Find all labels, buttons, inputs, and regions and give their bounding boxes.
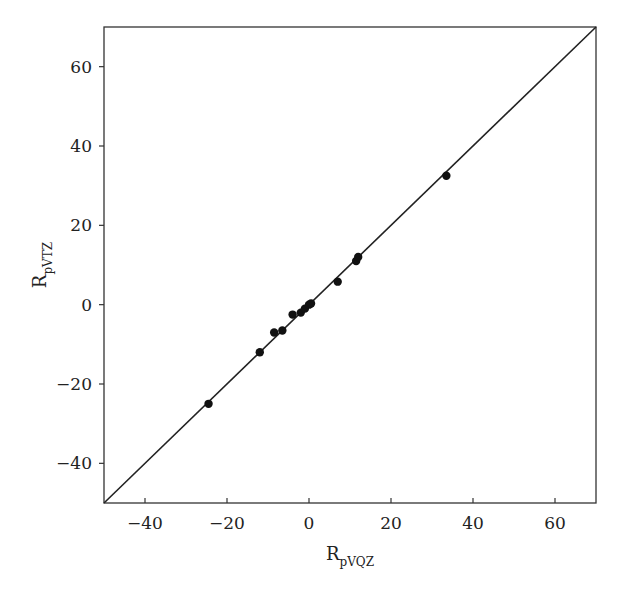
x-axis-label: RpVQZ [326, 543, 374, 569]
y-tick-label: −20 [56, 374, 92, 394]
x-tick-label: −20 [209, 513, 245, 533]
y-tick-label: 60 [70, 57, 92, 77]
data-point [204, 400, 212, 408]
data-point [442, 172, 450, 180]
identity-line [104, 27, 596, 503]
data-point [334, 277, 342, 285]
y-tick-label: 0 [81, 295, 92, 315]
data-point [307, 299, 315, 307]
data-point [278, 326, 286, 334]
y-tick-label: 40 [70, 136, 92, 156]
x-tick-label: 60 [544, 513, 566, 533]
data-point [288, 310, 296, 318]
x-tick-label: 20 [380, 513, 402, 533]
data-point [354, 253, 362, 261]
y-axis: −40−200204060 [56, 57, 104, 474]
x-tick-label: 40 [462, 513, 484, 533]
data-points [204, 172, 450, 408]
data-point [270, 328, 278, 336]
x-tick-label: −40 [127, 513, 163, 533]
data-point [256, 348, 264, 356]
scatter-chart: −40−200204060 −40−200204060 RpVQZ RpVTZ [0, 0, 628, 597]
y-axis-label: RpVTZ [29, 242, 55, 288]
y-equals-x-line [104, 27, 596, 503]
y-tick-label: 20 [70, 215, 92, 235]
x-tick-label: 0 [304, 513, 315, 533]
y-tick-label: −40 [56, 453, 92, 473]
